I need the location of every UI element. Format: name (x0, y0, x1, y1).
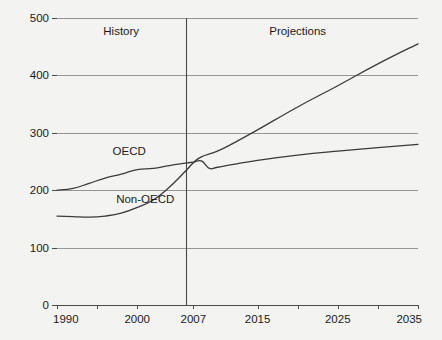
annotation-projections: Projections (269, 25, 326, 37)
y-axis-tick-label-100: 100 (30, 242, 49, 254)
annotation-history: History (103, 25, 139, 37)
x-axis-tick-label-2025: 2025 (325, 313, 351, 325)
y-axis-tick-label-200: 200 (30, 184, 49, 196)
y-axis-tick-label-400: 400 (30, 69, 49, 81)
y-axis-tick-label-500: 500 (30, 12, 49, 24)
x-axis-tick-label-2035: 2035 (396, 313, 422, 325)
x-axis-tick-label-2007: 2007 (181, 313, 207, 325)
x-axis-tick-label-2000: 2000 (124, 313, 150, 325)
y-axis-tick-label-300: 300 (30, 127, 49, 139)
chart-container: 0100200300400500 19902000200720152025203… (0, 0, 442, 340)
y-axis-tick-label-0: 0 (43, 299, 49, 311)
chart-background (0, 0, 442, 340)
x-axis-tick-label-2015: 2015 (245, 313, 271, 325)
annotation-oecd: OECD (113, 145, 146, 157)
x-axis-tick-label-1990: 1990 (53, 313, 79, 325)
line-chart: 0100200300400500 19902000200720152025203… (0, 0, 442, 340)
annotation-non-oecd: Non-OECD (116, 193, 174, 205)
